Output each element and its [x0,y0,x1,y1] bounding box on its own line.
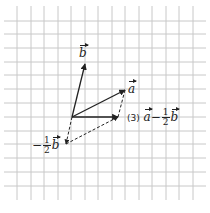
vectors [66,64,125,144]
fraction: 12 [43,136,51,155]
vector-b-arrow [72,64,85,117]
label-minus-half-b: −12b [32,136,59,155]
label-a: a [128,83,135,95]
grid [4,6,206,200]
fraction: 12 [162,108,170,127]
label-b: b [79,47,87,59]
label-result: (3) a−12b [127,108,178,127]
